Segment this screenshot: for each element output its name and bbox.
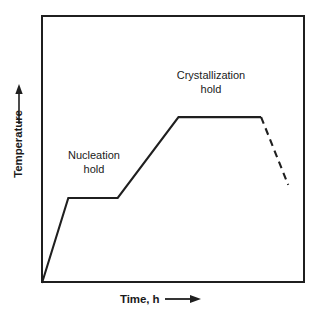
annotation-nucleation-line2: hold [55, 162, 133, 176]
y-axis-label-block: Temperature [4, 78, 30, 218]
temperature-time-figure: Temperature Time, h Nucleation hold Crys… [0, 0, 320, 319]
right-arrow-icon [165, 293, 201, 305]
y-axis-label: Temperature [12, 88, 24, 200]
annotation-nucleation-line1: Nucleation [68, 149, 120, 161]
x-axis-label: Time, h [120, 293, 159, 305]
annotation-crystallization-hold: Crystallization hold [160, 68, 262, 96]
annotation-crystallization-line1: Crystallization [177, 69, 245, 81]
annotation-nucleation-hold: Nucleation hold [55, 148, 133, 176]
annotation-crystallization-line2: hold [160, 82, 262, 96]
x-axis-label-block: Time, h [120, 288, 240, 310]
